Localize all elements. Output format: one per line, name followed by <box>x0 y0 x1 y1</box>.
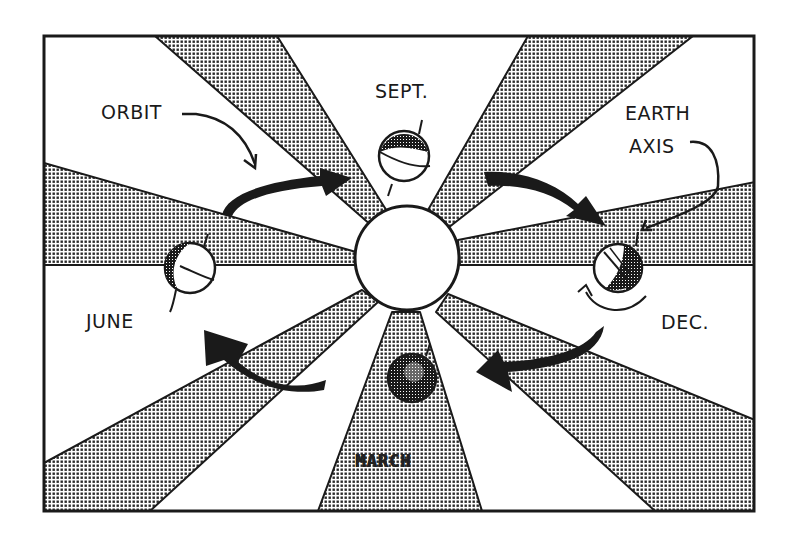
dec-label: DEC. <box>661 313 709 332</box>
sun-circle <box>355 206 459 310</box>
june-label: JUNE <box>86 312 134 331</box>
march-label: MARCH <box>355 453 411 470</box>
earth-axis-label-line1: EARTH <box>625 104 690 123</box>
orbit-label: ORBIT <box>101 103 162 122</box>
sept-label: SEPT. <box>375 82 428 101</box>
earth-axis-label-line2: AXIS <box>629 137 675 156</box>
